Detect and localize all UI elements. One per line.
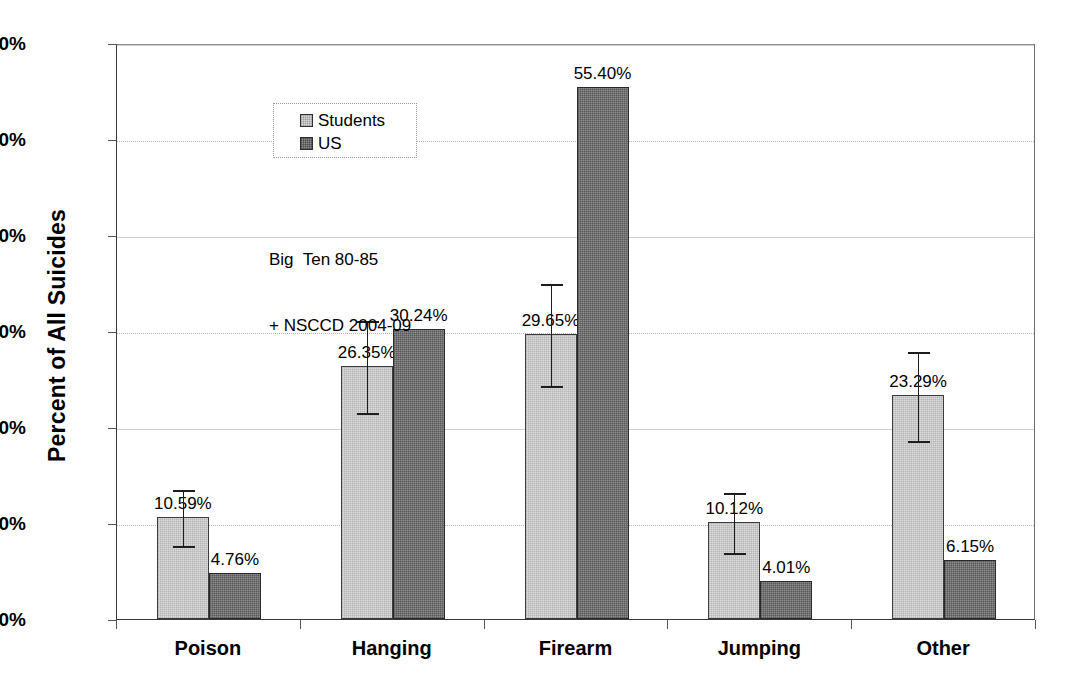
plot-area: 10.59%4.76%26.35%30.24%29.65%55.40%10.12… — [116, 44, 1035, 620]
y-axis-tick-label: 50% — [0, 129, 26, 151]
legend-item-us: US — [300, 133, 416, 154]
legend-swatch-students-icon — [300, 114, 313, 127]
data-label-us-firearm: 55.40% — [574, 64, 632, 84]
annotation-line-1: Big Ten 80-85 — [269, 249, 411, 271]
error-bar-cap-bottom — [908, 441, 930, 443]
x-axis-category-label-hanging: Hanging — [352, 637, 432, 660]
y-axis-tick-label: 20% — [0, 417, 26, 439]
y-axis-tick-label: 30% — [0, 321, 26, 343]
y-axis-tick-mark — [108, 332, 116, 333]
annotation-line-2: + NSCCD 2004-09 — [269, 315, 411, 337]
error-bar-cap-top — [541, 284, 563, 286]
legend-label-us: US — [318, 134, 342, 154]
error-bar-cap-top — [724, 493, 746, 495]
error-bar-cap-bottom — [357, 413, 379, 415]
error-bar-cap-top — [173, 490, 195, 492]
x-axis-tick-mark — [300, 620, 301, 629]
x-axis-category-label-jumping: Jumping — [718, 637, 801, 660]
y-axis-tick-label: 0% — [0, 609, 26, 631]
data-label-us-jumping: 4.01% — [762, 558, 810, 578]
x-axis-tick-mark — [484, 620, 485, 629]
gridline — [117, 141, 1034, 142]
error-bar-jumping — [734, 494, 735, 554]
x-axis-category-label-poison: Poison — [175, 637, 242, 660]
x-axis-tick-mark — [851, 620, 852, 629]
legend-item-students: Students — [300, 110, 416, 131]
y-axis-tick-mark — [108, 620, 116, 621]
y-axis-tick-mark — [108, 524, 116, 525]
x-axis-category-label-other: Other — [916, 637, 969, 660]
legend: Students US — [273, 103, 417, 158]
error-bar-cap-bottom — [724, 553, 746, 555]
bar-us-other — [944, 560, 996, 619]
x-axis-category-label-firearm: Firearm — [539, 637, 612, 660]
bar-us-jumping — [760, 581, 812, 619]
chart-annotation: Big Ten 80-85 + NSCCD 2004-09 — [269, 205, 411, 381]
data-label-us-other: 6.15% — [946, 537, 994, 557]
y-axis-tick-mark — [108, 236, 116, 237]
gridline — [117, 237, 1034, 238]
y-axis-tick-label: 40% — [0, 225, 26, 247]
x-axis-tick-mark — [1035, 620, 1036, 629]
error-bar-cap-bottom — [173, 546, 195, 548]
error-bar-cap-bottom — [541, 386, 563, 388]
legend-swatch-us-icon — [300, 137, 313, 150]
x-axis-tick-mark — [667, 620, 668, 629]
y-axis-tick-mark — [108, 140, 116, 141]
data-label-us-poison: 4.76% — [211, 550, 259, 570]
error-bar-other — [918, 353, 919, 441]
y-axis-tick-mark — [108, 428, 116, 429]
legend-label-students: Students — [318, 111, 385, 131]
error-bar-firearm — [551, 285, 552, 387]
error-bar-cap-top — [908, 352, 930, 354]
bar-us-poison — [209, 573, 261, 619]
x-axis-tick-mark — [116, 620, 117, 629]
y-axis-tick-mark — [108, 44, 116, 45]
y-axis-tick-label: 60% — [0, 33, 26, 55]
y-axis-tick-label: 10% — [0, 513, 26, 535]
error-bar-poison — [183, 491, 184, 547]
y-axis-title: Percent of All Suicides — [44, 171, 71, 501]
bar-chart: Percent of All Suicides 60%50%40%30%20%1… — [0, 0, 1067, 689]
gridline — [117, 45, 1034, 46]
bar-us-firearm — [577, 87, 629, 619]
